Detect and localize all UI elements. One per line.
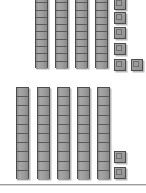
unit-cube-face	[116, 0, 122, 6]
unit-cube	[114, 151, 126, 163]
rod-unit-segment	[76, 18, 87, 25]
rod-unit-segment	[36, 11, 47, 18]
rod-unit-segment	[98, 152, 109, 161]
rod-unit-segment	[98, 116, 109, 125]
rod-unit-segment	[78, 106, 89, 115]
unit-cube	[114, 27, 126, 39]
ten-rod	[35, 0, 48, 68]
rod-unit-segment	[36, 47, 47, 54]
rod-unit-segment	[76, 62, 87, 69]
rod-unit-segment	[56, 47, 67, 54]
rod-unit-segment	[56, 54, 67, 61]
rod-unit-segment	[38, 143, 49, 152]
rod-unit-segment	[17, 88, 28, 97]
unit-cube	[114, 12, 126, 24]
rod-unit-segment	[36, 40, 47, 47]
rod-unit-segment	[78, 125, 89, 134]
rod-unit-segment	[58, 171, 69, 180]
rod-unit-segment	[38, 162, 49, 171]
rod-unit-segment	[98, 162, 109, 171]
rod-unit-segment	[98, 125, 109, 134]
rod-unit-segment	[56, 11, 67, 18]
rod-unit-segment	[56, 32, 67, 39]
rod-unit-segment	[17, 171, 28, 180]
rod-unit-segment	[58, 106, 69, 115]
rod-unit-segment	[78, 88, 89, 97]
rod-unit-segment	[36, 18, 47, 25]
rod-unit-segment	[36, 54, 47, 61]
rod-unit-segment	[96, 18, 107, 25]
unit-cube-face	[116, 169, 122, 175]
rod-unit-segment	[78, 134, 89, 143]
rod-unit-segment	[58, 162, 69, 171]
rod-unit-segment	[38, 125, 49, 134]
rod-unit-segment	[17, 116, 28, 125]
rod-unit-segment	[36, 25, 47, 32]
ten-rod	[97, 87, 110, 179]
rod-unit-segment	[58, 134, 69, 143]
unit-cube	[114, 43, 126, 55]
rod-unit-segment	[58, 88, 69, 97]
ten-rod	[16, 87, 29, 179]
rod-unit-segment	[38, 171, 49, 180]
rod-unit-segment	[76, 11, 87, 18]
rod-unit-segment	[78, 152, 89, 161]
unit-cube-face	[116, 45, 122, 51]
rod-unit-segment	[78, 97, 89, 106]
ten-rod	[37, 87, 50, 179]
rod-unit-segment	[17, 125, 28, 134]
rod-unit-segment	[17, 152, 28, 161]
rod-unit-segment	[98, 106, 109, 115]
rod-unit-segment	[96, 32, 107, 39]
rod-unit-segment	[38, 134, 49, 143]
rod-unit-segment	[98, 97, 109, 106]
ten-rod	[57, 87, 70, 179]
rod-unit-segment	[76, 40, 87, 47]
rod-unit-segment	[76, 32, 87, 39]
rod-unit-segment	[38, 152, 49, 161]
ten-rod	[55, 0, 68, 68]
rod-unit-segment	[56, 18, 67, 25]
ten-rod	[77, 87, 90, 179]
rod-unit-segment	[56, 3, 67, 10]
rod-unit-segment	[96, 62, 107, 69]
unit-cube-face	[133, 61, 139, 67]
rod-unit-segment	[96, 25, 107, 32]
rod-unit-segment	[78, 116, 89, 125]
rod-unit-segment	[38, 116, 49, 125]
unit-cube-face	[116, 61, 122, 67]
rod-unit-segment	[36, 62, 47, 69]
rod-unit-segment	[17, 162, 28, 171]
rod-unit-segment	[58, 143, 69, 152]
unit-cube	[114, 0, 126, 10]
rod-unit-segment	[76, 3, 87, 10]
rod-unit-segment	[76, 54, 87, 61]
unit-cube	[114, 59, 126, 71]
unit-cube	[114, 167, 126, 179]
rod-unit-segment	[78, 162, 89, 171]
rod-unit-segment	[56, 25, 67, 32]
rod-unit-segment	[96, 40, 107, 47]
horizontal-divider	[0, 184, 146, 186]
rod-unit-segment	[17, 106, 28, 115]
rod-unit-segment	[36, 3, 47, 10]
rod-unit-segment	[17, 97, 28, 106]
unit-cube-face	[116, 153, 122, 159]
rod-unit-segment	[36, 32, 47, 39]
rod-unit-segment	[17, 143, 28, 152]
unit-cube-face	[116, 29, 122, 35]
rod-unit-segment	[98, 134, 109, 143]
base-ten-blocks-canvas	[0, 0, 146, 193]
ten-rod	[75, 0, 88, 68]
rod-unit-segment	[98, 171, 109, 180]
rod-unit-segment	[98, 88, 109, 97]
rod-unit-segment	[96, 3, 107, 10]
unit-cube-face	[116, 14, 122, 20]
rod-unit-segment	[56, 62, 67, 69]
rod-unit-segment	[78, 143, 89, 152]
rod-unit-segment	[58, 152, 69, 161]
rod-unit-segment	[58, 125, 69, 134]
rod-unit-segment	[38, 88, 49, 97]
rod-unit-segment	[58, 97, 69, 106]
rod-unit-segment	[98, 143, 109, 152]
